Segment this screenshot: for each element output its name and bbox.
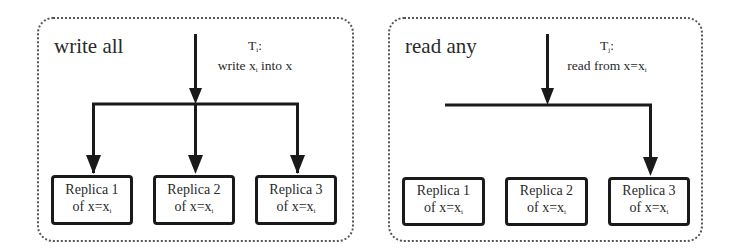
arrowhead-icon	[189, 88, 202, 104]
write-flow-arrows	[86, 34, 305, 174]
read-flow-arrows	[445, 34, 658, 176]
arrowhead-icon	[643, 157, 658, 176]
arrowhead-icon	[86, 155, 101, 174]
connector-arrows	[0, 0, 736, 250]
arrowhead-icon	[290, 155, 305, 174]
arrowhead-icon	[541, 88, 554, 105]
arrowhead-icon	[188, 155, 203, 174]
